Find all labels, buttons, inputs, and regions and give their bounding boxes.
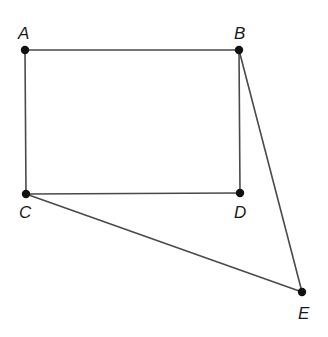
point-e-dot: [298, 288, 306, 296]
diagram-svg: ABCDE: [0, 0, 328, 337]
point-b-dot: [235, 46, 243, 54]
segment-ce: [26, 194, 302, 292]
geometry-diagram: ABCDE: [0, 0, 328, 337]
points-group: [21, 46, 306, 296]
segment-ac: [25, 50, 26, 194]
labels-group: ABCDE: [17, 24, 310, 323]
point-d-dot: [236, 189, 244, 197]
point-d-label: D: [234, 203, 246, 222]
point-c-label: C: [19, 203, 32, 222]
point-a-dot: [21, 46, 29, 54]
segment-be: [239, 50, 302, 292]
point-a-label: A: [17, 24, 29, 43]
point-c-dot: [22, 190, 30, 198]
segment-bd: [239, 50, 240, 193]
point-b-label: B: [234, 24, 245, 43]
segments-group: [25, 50, 302, 292]
segment-cd: [26, 193, 240, 194]
point-e-label: E: [298, 304, 310, 323]
